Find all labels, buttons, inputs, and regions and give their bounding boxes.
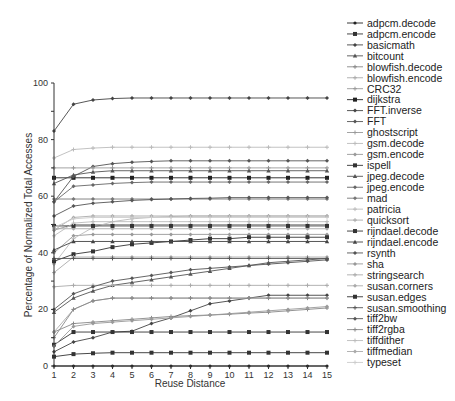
legend-item: typeset xyxy=(347,356,401,368)
point-marker-icon xyxy=(325,176,329,180)
series-gsm-decode xyxy=(52,145,329,160)
point-marker-icon xyxy=(247,235,251,239)
point-marker-icon xyxy=(150,159,154,163)
point-marker-icon xyxy=(228,159,232,163)
point-marker-icon xyxy=(189,314,193,318)
point-marker-icon xyxy=(150,96,154,100)
x-tick-label: 5 xyxy=(129,370,134,380)
legend-marker-icon xyxy=(353,196,357,200)
legend-marker-icon xyxy=(353,295,357,299)
point-marker-icon xyxy=(286,283,290,287)
point-marker-icon xyxy=(325,235,329,239)
point-marker-icon xyxy=(130,330,134,334)
point-marker-icon xyxy=(150,232,154,236)
point-marker-icon xyxy=(325,283,329,287)
point-marker-icon xyxy=(150,180,154,184)
point-marker-icon xyxy=(169,176,173,180)
legend-marker-icon xyxy=(353,328,357,332)
point-marker-icon xyxy=(228,224,232,228)
x-tick-label: 10 xyxy=(224,370,234,380)
point-marker-icon xyxy=(286,180,290,184)
point-marker-icon xyxy=(169,159,173,163)
point-marker-icon xyxy=(228,351,232,355)
legend-marker-icon xyxy=(353,360,357,364)
point-marker-icon xyxy=(72,148,76,152)
point-marker-icon xyxy=(208,302,212,306)
point-marker-icon xyxy=(169,96,173,100)
series-adpcm-encode xyxy=(52,351,329,359)
x-tick-label: 2 xyxy=(71,370,76,380)
point-marker-icon xyxy=(189,296,193,300)
point-marker-icon xyxy=(247,330,251,334)
point-marker-icon xyxy=(111,97,115,101)
point-marker-icon xyxy=(130,145,134,149)
x-tick-label: 6 xyxy=(149,370,154,380)
point-marker-icon xyxy=(267,296,271,300)
legend-marker-icon xyxy=(353,262,357,266)
point-marker-icon xyxy=(325,296,329,300)
y-tick-label: 80 xyxy=(38,135,48,145)
point-marker-icon xyxy=(91,232,95,236)
point-marker-icon xyxy=(111,245,115,249)
point-marker-icon xyxy=(228,330,232,334)
legend-marker-icon xyxy=(353,185,357,189)
point-marker-icon xyxy=(267,235,271,239)
point-marker-icon xyxy=(189,351,193,355)
point-marker-icon xyxy=(208,145,212,149)
point-marker-icon xyxy=(72,340,76,344)
point-marker-icon xyxy=(267,180,271,184)
legend-marker-icon xyxy=(353,251,357,255)
point-marker-icon xyxy=(247,145,251,149)
legend-marker-icon xyxy=(353,109,357,113)
point-marker-icon xyxy=(208,220,212,224)
point-marker-icon xyxy=(325,159,329,163)
point-marker-icon xyxy=(169,351,173,355)
point-marker-icon xyxy=(267,330,271,334)
legend-marker-icon xyxy=(353,65,357,69)
point-marker-icon xyxy=(111,145,115,149)
point-marker-icon xyxy=(228,145,232,149)
point-marker-icon xyxy=(130,220,134,224)
point-marker-icon xyxy=(306,283,310,287)
point-marker-icon xyxy=(111,181,115,185)
y-tick-label: 0 xyxy=(43,361,48,371)
series-dijkstra xyxy=(52,176,329,180)
point-marker-icon xyxy=(208,159,212,163)
legend-marker-icon xyxy=(353,76,357,80)
point-marker-icon xyxy=(130,296,134,300)
point-marker-icon xyxy=(247,351,251,355)
point-marker-icon xyxy=(286,351,290,355)
point-marker-icon xyxy=(286,176,290,180)
point-marker-icon xyxy=(286,159,290,163)
point-marker-icon xyxy=(91,249,95,253)
legend-marker-icon xyxy=(353,284,357,288)
point-marker-icon xyxy=(267,220,271,224)
point-marker-icon xyxy=(306,96,310,100)
point-marker-icon xyxy=(169,197,173,201)
point-marker-icon xyxy=(91,330,95,334)
y-tick-label: 20 xyxy=(38,304,48,314)
point-marker-icon xyxy=(189,330,193,334)
point-marker-icon xyxy=(208,176,212,180)
point-marker-icon xyxy=(189,309,193,313)
legend-marker-icon xyxy=(353,306,357,310)
point-marker-icon xyxy=(325,224,329,228)
point-marker-icon xyxy=(325,351,329,355)
point-marker-icon xyxy=(111,200,115,204)
y-axis-title: Percentage of Normalized Total Accesses xyxy=(23,133,34,317)
point-marker-icon xyxy=(286,220,290,224)
point-marker-icon xyxy=(325,180,329,184)
point-marker-icon xyxy=(247,176,251,180)
point-marker-icon xyxy=(150,283,154,287)
y-tick-label: 100 xyxy=(33,78,48,88)
point-marker-icon xyxy=(130,176,134,180)
x-tick-label: 4 xyxy=(110,370,115,380)
point-marker-icon xyxy=(189,224,193,228)
point-marker-icon xyxy=(150,220,154,224)
point-marker-icon xyxy=(91,146,95,150)
point-marker-icon xyxy=(267,145,271,149)
point-marker-icon xyxy=(247,180,251,184)
point-marker-icon xyxy=(286,224,290,228)
point-marker-icon xyxy=(208,224,212,228)
point-marker-icon xyxy=(208,330,212,334)
